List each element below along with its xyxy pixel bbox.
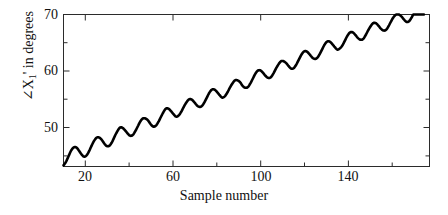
data-series-line — [64, 15, 424, 166]
x-tick-label-140: 140 — [328, 170, 368, 184]
x-tick-label-20: 20 — [65, 170, 105, 184]
x-tick-label-60: 60 — [153, 170, 193, 184]
y-axis-label-prefix: ∠X — [21, 79, 36, 101]
y-axis-label-wrapper: ∠X1' in degrees — [19, 0, 39, 131]
x-axis-label: Sample number — [0, 189, 448, 203]
axes-frame — [64, 15, 430, 167]
chart-figure: 70 60 50 20 60 100 140 Sample number ∠X1… — [0, 0, 448, 215]
y-axis-label-subscript: 1 — [27, 74, 38, 79]
y-axis-label: ∠X1' in degrees — [21, 11, 36, 101]
y-axis-label-suffix: ' in degrees — [21, 11, 36, 74]
x-tick-label-100: 100 — [241, 170, 281, 184]
y-axis-ticks — [64, 15, 430, 156]
